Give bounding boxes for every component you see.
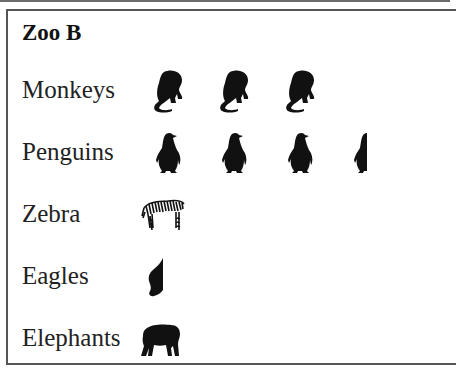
- row-monkeys: Monkeys: [22, 62, 442, 118]
- row-label: Elephants: [22, 310, 121, 366]
- monkey-icon: [216, 68, 252, 114]
- row-label: Penguins: [22, 124, 114, 180]
- penguin-icon-half: [348, 130, 367, 176]
- row-label: Eagles: [22, 248, 89, 304]
- eagle-icon-half: [142, 254, 166, 300]
- top-rule: [0, 0, 450, 2]
- monkey-icon: [282, 68, 318, 114]
- row-zebra: Zebra: [22, 186, 442, 242]
- penguin-icon: [282, 130, 318, 176]
- row-eagles: Eagles: [22, 248, 442, 304]
- row-elephants: Elephants: [22, 310, 442, 366]
- row-label: Monkeys: [22, 62, 115, 118]
- chart-title: Zoo B: [22, 20, 81, 46]
- row-penguins: Penguins: [22, 124, 442, 180]
- row-label: Zebra: [22, 186, 80, 242]
- monkey-icon: [150, 68, 186, 114]
- penguin-icon: [150, 130, 186, 176]
- elephant-icon: [138, 316, 182, 362]
- penguin-icon: [216, 130, 252, 176]
- zebra-icon: [138, 192, 188, 238]
